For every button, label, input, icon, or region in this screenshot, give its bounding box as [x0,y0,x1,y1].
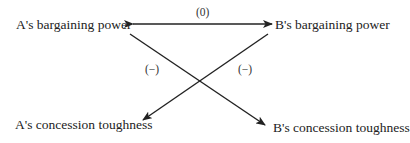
node-a-concession-toughness: A's concession toughness [15,118,152,132]
edge-label-zero: (0) [196,7,209,19]
node-b-bargaining-power: B's bargaining power [275,18,390,32]
edge-label-negative-right: (−) [238,64,252,76]
edge-label-negative-left: (−) [145,64,159,76]
node-a-bargaining-power: A's bargaining power [16,18,131,32]
arrow-a-power-to-b-toughness [130,34,265,125]
arrow-b-power-to-a-toughness [143,34,268,120]
node-b-concession-toughness: B's concession toughness [273,121,410,135]
